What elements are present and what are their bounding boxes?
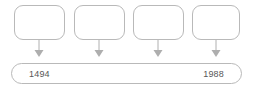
arrow-down-icon	[32, 40, 46, 59]
timeline-node-box[interactable]	[74, 5, 125, 40]
timeline-bar[interactable]: 1494 1988	[11, 63, 242, 84]
timeline-node-box[interactable]	[192, 5, 240, 40]
timeline-diagram: 1494 1988	[0, 0, 253, 88]
arrow-down-icon	[151, 40, 165, 59]
timeline-start-label: 1494	[29, 69, 50, 79]
timeline-node-box[interactable]	[14, 5, 65, 40]
arrow-down-icon	[92, 40, 106, 59]
timeline-end-label: 1988	[203, 69, 224, 79]
arrow-down-icon	[209, 40, 223, 59]
timeline-node-box[interactable]	[133, 5, 184, 40]
